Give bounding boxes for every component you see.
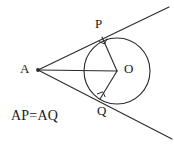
point-label-q: Q — [97, 104, 106, 117]
point-label-a: A — [20, 62, 29, 75]
geometry-figure: A P O Q AP=AQ — [0, 0, 174, 146]
radius-o-to-p — [102, 37, 117, 71]
radius-o-to-q — [100, 71, 117, 99]
equation-annotation: AP=AQ — [11, 108, 58, 124]
segment-a-to-o — [38, 70, 117, 71]
point-label-p: P — [95, 17, 102, 30]
point-marker-a — [36, 68, 40, 72]
tangent-line-upper — [38, 7, 169, 70]
point-label-o: O — [124, 62, 133, 75]
